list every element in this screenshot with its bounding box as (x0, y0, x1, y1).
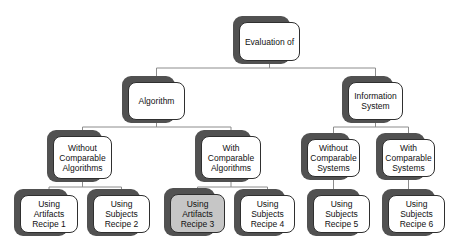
node-face: Using Subjects Recipe 5 (313, 195, 370, 233)
node-label-line: Evaluation of (245, 37, 294, 47)
node-label-line: Comparable (59, 153, 105, 163)
node-label-line: Algorithms (62, 163, 102, 173)
node-using-subjects-recipe-2: Using Subjects Recipe 2 (93, 195, 150, 233)
node-label-line: Information (354, 91, 397, 101)
node-face: Algorithm (128, 82, 185, 120)
node-label-line: Recipe 2 (105, 219, 139, 229)
node-label-line: Artifacts (34, 209, 65, 219)
node-using-subjects-recipe-5: Using Subjects Recipe 5 (313, 195, 370, 233)
node-label-line: With (223, 143, 240, 153)
node-face: Information System (348, 82, 403, 120)
node-face: Using Subjects Recipe 4 (240, 195, 295, 233)
node-using-subjects-recipe-6: Using Subjects Recipe 6 (388, 195, 445, 233)
node-face: Using Artifacts Recipe 1 (20, 195, 78, 233)
node-label-line: Subjects (251, 209, 284, 219)
node-label-line: Systems (392, 163, 425, 173)
node-face: Evaluation of (239, 22, 300, 61)
node-with-comparable-systems: With Comparable Systems (382, 139, 435, 177)
node-label-line: Using (187, 199, 209, 209)
node-label-line: Subjects (105, 209, 138, 219)
node-label-line: Using (111, 199, 133, 209)
node-label-line: With (400, 143, 417, 153)
node-label-line: Recipe 5 (325, 219, 359, 229)
node-label-line: Recipe 3 (181, 219, 215, 229)
node-label-line: System (361, 101, 389, 111)
node-algorithm: Algorithm (128, 82, 185, 120)
node-label-line: Without (319, 143, 348, 153)
node-face: With Comparable Algorithms (201, 136, 261, 179)
node-face: Using Subjects Recipe 2 (93, 195, 150, 233)
node-label-line: Comparable (310, 153, 356, 163)
node-face: With Comparable Systems (382, 139, 435, 177)
node-face: Using Artifacts Recipe 3 (170, 194, 225, 233)
node-label-line: Artifacts (182, 209, 213, 219)
node-information-system: Information System (348, 82, 403, 120)
node-label-line: Systems (317, 163, 350, 173)
node-without-comparable-systems: Without Comparable Systems (307, 139, 360, 177)
node-label-line: Algorithms (211, 163, 251, 173)
taxonomy-tree-diagram: Evaluation of Algorithm Information Syst… (0, 0, 457, 247)
node-label-line: Comparable (208, 153, 254, 163)
node-label-line: Using (406, 199, 428, 209)
node-label-line: Recipe 4 (251, 219, 285, 229)
node-label-line: Subjects (325, 209, 358, 219)
node-using-artifacts-recipe-3: Using Artifacts Recipe 3 (170, 194, 225, 233)
node-face: Without Comparable Systems (307, 139, 360, 177)
node-label-line: Using (38, 199, 60, 209)
node-label-line: Using (331, 199, 353, 209)
node-label-line: Without (68, 143, 97, 153)
node-with-comparable-algorithms: With Comparable Algorithms (201, 136, 261, 179)
node-label-line: Using (257, 199, 279, 209)
node-label-line: Recipe 1 (32, 219, 66, 229)
node-using-artifacts-recipe-1: Using Artifacts Recipe 1 (20, 195, 78, 233)
node-without-comparable-algorithms: Without Comparable Algorithms (53, 136, 112, 179)
node-face: Without Comparable Algorithms (53, 136, 112, 179)
node-evaluation-of: Evaluation of (239, 22, 300, 61)
node-using-subjects-recipe-4: Using Subjects Recipe 4 (240, 195, 295, 233)
node-label-line: Subjects (400, 209, 433, 219)
node-label-line: Algorithm (139, 96, 175, 106)
node-label-line: Recipe 6 (400, 219, 434, 229)
node-face: Using Subjects Recipe 6 (388, 195, 445, 233)
node-label-line: Comparable (385, 153, 431, 163)
